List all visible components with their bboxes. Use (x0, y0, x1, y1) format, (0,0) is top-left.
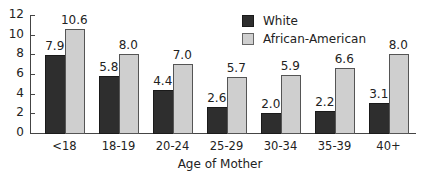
y-tick-mark (30, 133, 35, 134)
y-tick-mark (30, 15, 35, 16)
x-tick-label: 18-19 (92, 139, 146, 153)
bar-value-label: 8.0 (383, 38, 413, 52)
bar-african-american (119, 54, 140, 134)
bar-white (369, 103, 390, 134)
bar-value-label: 6.6 (329, 52, 359, 66)
bar-white (99, 76, 120, 134)
bar-white (153, 90, 174, 134)
y-tick-label: 8 (4, 46, 24, 60)
legend: White African-American (242, 12, 366, 48)
bar-value-label: 5.7 (221, 61, 251, 75)
legend-label: African-American (263, 32, 366, 46)
y-tick-label: 12 (4, 7, 24, 21)
bar-african-american (227, 77, 248, 134)
legend-item-white: White (242, 12, 366, 30)
bar-value-label: 10.6 (59, 13, 89, 27)
bar-african-american (173, 64, 194, 134)
y-tick-mark (30, 74, 35, 75)
bar-white (315, 111, 336, 134)
y-tick-mark (30, 113, 35, 114)
y-tick-label: 4 (4, 86, 24, 100)
bar-white (261, 113, 282, 134)
x-tick-label: 20-24 (146, 139, 200, 153)
legend-swatch-white (242, 15, 254, 27)
legend-label: White (263, 14, 298, 28)
y-tick-mark (30, 35, 35, 36)
x-tick-label: <18 (38, 139, 92, 153)
bar-value-label: 8.0 (113, 38, 143, 52)
bar-value-label: 7.0 (167, 48, 197, 62)
bar-african-american (65, 29, 86, 134)
x-tick-label: 40+ (362, 139, 416, 153)
y-tick-label: 0 (4, 125, 24, 139)
bar-chart: 024681012 7.910.65.88.04.47.02.65.72.05.… (0, 0, 424, 182)
legend-swatch-african-american (242, 33, 254, 45)
bar-white (45, 55, 66, 134)
y-tick-mark (30, 94, 35, 95)
y-tick-label: 10 (4, 27, 24, 41)
bar-african-american (335, 68, 356, 134)
y-tick-label: 2 (4, 105, 24, 119)
y-tick-label: 6 (4, 66, 24, 80)
x-axis-title: Age of Mother (150, 157, 290, 171)
legend-item-african-american: African-American (242, 30, 366, 48)
x-tick-label: 25-29 (200, 139, 254, 153)
x-tick-label: 35-39 (308, 139, 362, 153)
y-tick-mark (30, 54, 35, 55)
bar-african-american (389, 54, 410, 134)
bar-value-label: 5.9 (275, 59, 305, 73)
bar-white (207, 107, 228, 134)
x-tick-label: 30-34 (254, 139, 308, 153)
bar-african-american (281, 75, 302, 134)
